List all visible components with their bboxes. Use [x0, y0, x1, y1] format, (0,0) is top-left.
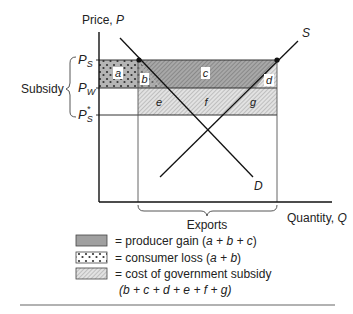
legend-subsidy-cost-formula: (b + c + d + e + f + g): [119, 283, 231, 297]
pw-label: PW: [78, 80, 97, 97]
legend: = producer gain (a + b + c) = consumer l…: [76, 234, 271, 297]
label-d: d: [266, 74, 273, 86]
legend-swatch-subsidy-cost: [76, 268, 107, 279]
legend-subsidy-cost: = cost of government subsidy: [115, 267, 271, 281]
subsidy-brace: [66, 57, 76, 117]
label-a: a: [115, 67, 121, 79]
x-axis-title: Quantity, Q: [287, 211, 347, 225]
legend-swatch-producer-gain: [76, 235, 107, 246]
supply-point: [274, 57, 279, 62]
subsidy-label: Subsidy: [21, 82, 64, 96]
exports-brace: [138, 205, 277, 216]
y-axis-title: Price, P: [82, 13, 124, 27]
label-g: g: [250, 96, 257, 108]
label-e: e: [156, 96, 162, 108]
demand-point: [136, 57, 141, 62]
label-c: c: [203, 67, 209, 79]
exports-label: Exports: [187, 218, 228, 232]
legend-consumer-loss: = consumer loss (a + b): [115, 251, 241, 265]
ps-label: PS: [78, 52, 93, 69]
demand-label: D: [254, 179, 263, 193]
supply-label: S: [302, 26, 310, 40]
export-subsidy-diagram: a b c d e f g S D Price, P Quantity, Q P…: [0, 0, 353, 314]
legend-swatch-consumer-loss: [76, 252, 107, 263]
label-b: b: [141, 73, 147, 85]
ps-star-label: PS*: [78, 104, 93, 124]
legend-producer-gain: = producer gain (a + b + c): [115, 234, 257, 248]
